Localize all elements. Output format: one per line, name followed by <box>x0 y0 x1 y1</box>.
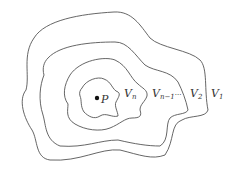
label-vn: Vn <box>124 87 137 101</box>
label-vn-1: Vn−1··· <box>152 87 181 101</box>
label-p: P <box>100 93 109 106</box>
label-v1: V1 <box>211 87 223 101</box>
nested-neighborhood-diagram: P Vn Vn−1··· V2 V1 <box>0 0 230 178</box>
point-p-dot <box>95 96 99 100</box>
contour-vn <box>80 78 120 118</box>
label-v2: V2 <box>190 87 203 101</box>
